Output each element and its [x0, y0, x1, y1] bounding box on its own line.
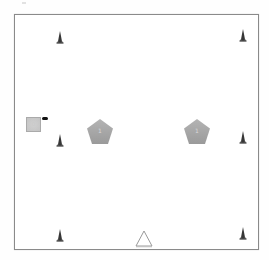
triangle-icon — [135, 230, 153, 248]
top-mark — [22, 2, 26, 4]
cone-icon — [239, 131, 247, 144]
cone-icon — [239, 29, 247, 42]
cone-icon — [56, 134, 64, 147]
square-block: 0 — [26, 117, 41, 132]
pentagon-right: 1 — [183, 118, 211, 146]
square-label: 0 — [27, 122, 40, 127]
pentagon-left: 1 — [86, 118, 114, 146]
cone-icon — [56, 229, 64, 242]
cone-icon — [56, 31, 64, 44]
cone-icon — [239, 227, 247, 240]
marker-icon — [42, 117, 48, 120]
pentagon-label: 1 — [86, 128, 114, 134]
game-scene: 110 — [0, 0, 269, 260]
arena-border — [14, 14, 259, 250]
pentagon-label: 1 — [183, 128, 211, 134]
